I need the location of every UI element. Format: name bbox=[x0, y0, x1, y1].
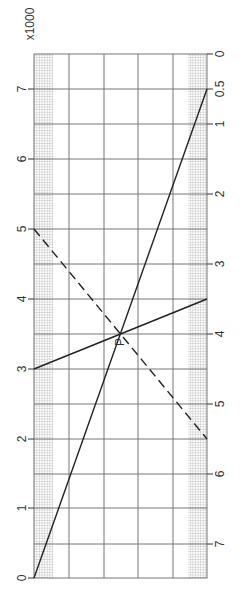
left-label-2: 2 bbox=[15, 435, 29, 442]
left-label-5: 5 bbox=[15, 225, 29, 232]
right-label-6: 6 bbox=[213, 470, 227, 477]
grid bbox=[34, 54, 207, 578]
left-label-0: 0 bbox=[15, 574, 29, 581]
right-label-7: 7 bbox=[213, 540, 227, 547]
right-label-4: 4 bbox=[213, 330, 227, 337]
left-label-6: 6 bbox=[15, 155, 29, 162]
right-label-2: 2 bbox=[213, 190, 227, 197]
right-label-1: 1 bbox=[213, 120, 227, 127]
right-axis-labels: 0 0.5 1 2 3 4 5 6 7 bbox=[213, 50, 227, 547]
point-p-label: P bbox=[113, 338, 127, 346]
right-label-0-5: 0.5 bbox=[213, 80, 227, 97]
left-label-4: 4 bbox=[15, 295, 29, 302]
left-axis-labels: 0 1 2 3 4 5 6 7 bbox=[15, 85, 29, 581]
left-hatch-band bbox=[34, 54, 53, 578]
rotated-line-chart: 0 1 2 3 4 5 6 7 0 0.5 1 2 3 4 5 6 7 x100… bbox=[0, 0, 240, 615]
right-label-0: 0 bbox=[213, 50, 227, 57]
right-label-5: 5 bbox=[213, 400, 227, 407]
multiplier-label: x1000 bbox=[23, 7, 37, 40]
left-label-7: 7 bbox=[15, 85, 29, 92]
left-label-3: 3 bbox=[15, 365, 29, 372]
right-label-3: 3 bbox=[213, 260, 227, 267]
left-label-1: 1 bbox=[15, 504, 29, 511]
